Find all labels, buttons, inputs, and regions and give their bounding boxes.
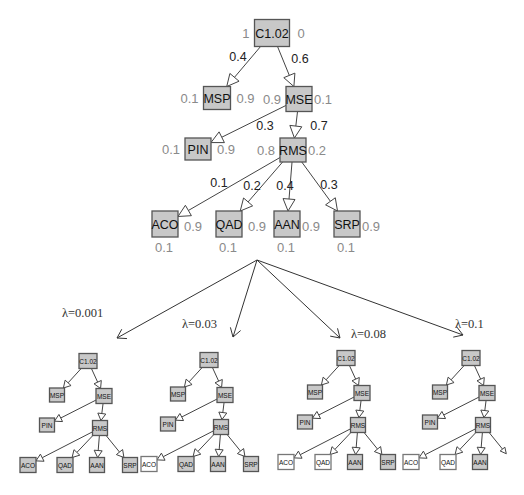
node-aco: ACO0.90.1	[151, 211, 202, 255]
edge-weight: 0.4	[276, 179, 293, 193]
node-label: ACO	[404, 459, 418, 466]
arrowhead-icon	[477, 377, 484, 385]
edge-line	[198, 435, 214, 452]
node-label: QAD	[58, 462, 72, 470]
edge-weight: 0.3	[320, 178, 337, 192]
node-label: PIN	[163, 421, 174, 428]
arrowhead-icon	[178, 205, 191, 216]
edge-RMS-SRP-pruned	[489, 433, 506, 454]
edge-MSE-RMS	[290, 112, 302, 139]
small-node-pin: PIN	[423, 415, 438, 429]
small-node-c102: C1.02	[200, 353, 218, 368]
edge-RMS-QAD	[330, 433, 351, 455]
small-node-pin: PIN	[40, 418, 55, 432]
arrow-line	[257, 260, 463, 335]
edge-line	[349, 366, 355, 380]
edge-RMS-AAN	[94, 436, 102, 458]
left-probability: 1	[242, 26, 249, 41]
small-node-aan: AAN	[90, 458, 105, 473]
small-node-qad: QAD	[178, 457, 194, 472]
small-node-srp: SRP	[244, 457, 259, 472]
small-node-mse: MSE	[96, 389, 112, 404]
node-label: AAN	[348, 459, 362, 466]
arrowhead-icon	[237, 449, 245, 457]
node-pin: PIN0.10.9	[162, 138, 235, 160]
small-node-pin: PIN	[161, 417, 176, 431]
pruned-tree-2: C1.02MSPMSEPINRMSACOQADAANSRP	[141, 353, 259, 472]
edge-C102-MSE	[91, 369, 101, 389]
edge-line	[98, 436, 99, 451]
small-node-aco: ACO	[278, 455, 294, 470]
node-label: AAN	[274, 218, 300, 232]
edge-weight: 0.6	[291, 52, 308, 66]
edge-C102-MSP	[321, 366, 339, 386]
edge-C102-MSP	[446, 366, 464, 386]
edge-line	[444, 397, 479, 415]
edge-MSE-PIN	[211, 105, 286, 142]
small-node-qad: QAD	[440, 455, 456, 470]
node-label: MSP	[308, 389, 322, 396]
node-label: AAN	[473, 459, 487, 466]
pruned-tree-4: C1.02MSPMSEPINRMSACOQADAAN	[403, 351, 506, 470]
node-label: AAN	[211, 461, 225, 468]
edge-RMS-SRP	[227, 435, 245, 457]
edge-C102-MSE	[212, 368, 222, 388]
lambda-label: λ=0.03	[182, 317, 217, 331]
small-node-mse: MSE	[479, 386, 495, 401]
right-probability: 0.9	[362, 219, 380, 234]
node-label: QAD	[441, 459, 455, 467]
right-probability: 0.9	[237, 91, 255, 106]
small-node-msp: MSP	[171, 387, 186, 401]
arrowhead-icon	[215, 379, 222, 387]
edge-line	[219, 435, 220, 450]
node-label: SRP	[244, 461, 257, 468]
edge-line	[163, 431, 213, 457]
arrowhead-icon	[356, 410, 364, 417]
edge-line	[188, 158, 280, 211]
node-label: PIN	[300, 419, 311, 426]
node-label: QAD	[215, 218, 242, 232]
node-label: MSE	[480, 390, 495, 397]
arrowhead-icon	[477, 447, 485, 454]
edge-RMS-AAN	[215, 435, 223, 457]
node-c102: C1.0210	[242, 20, 304, 47]
small-node-aan: AAN	[348, 455, 363, 470]
node-label: MSP	[203, 92, 230, 106]
edge-line	[106, 436, 119, 453]
node-label: AAN	[90, 462, 104, 469]
small-node-msp: MSP	[308, 385, 323, 399]
edge-C102-MSP	[184, 368, 202, 388]
edge-MSE-RMS	[481, 401, 489, 418]
small-node-aco: ACO	[20, 458, 36, 473]
arrowhead-icon	[500, 447, 506, 454]
arrowhead-icon	[227, 73, 239, 86]
small-node-mse: MSE	[354, 386, 370, 401]
edge-RMS-ACO	[157, 431, 214, 460]
edge-line	[474, 366, 480, 380]
small-node-mse: MSE	[217, 388, 233, 403]
edge-MSE-PIN	[438, 397, 480, 419]
edge-MSE-PIN	[313, 397, 355, 419]
right-probability: 0	[298, 26, 305, 41]
edge-RMS-QAD	[72, 436, 93, 458]
left-probability: 0.9	[263, 92, 281, 107]
below-probability: 0.1	[155, 240, 173, 255]
edge-line	[182, 399, 217, 417]
node-label: PIN	[188, 143, 209, 157]
arrowhead-icon	[98, 413, 106, 420]
arrowhead-icon	[240, 198, 252, 211]
small-node-qad: QAD	[57, 458, 73, 473]
node-label: C1.02	[462, 355, 480, 362]
edge-C102-MSE	[349, 366, 359, 386]
node-label: ACO	[142, 461, 156, 468]
node-label: ACO	[21, 462, 35, 469]
lambda-arrows: λ=0.001λ=0.03λ=0.08λ=0.1	[62, 260, 484, 341]
edge-C102-MSP	[63, 369, 81, 389]
below-probability: 0.1	[337, 240, 355, 255]
right-probability: 0.9	[248, 219, 266, 234]
small-node-c102: C1.02	[79, 354, 97, 369]
edge-line	[223, 403, 224, 413]
small-node-srp: SRP	[381, 455, 396, 470]
node-label: C1.02	[79, 358, 97, 365]
small-node-pin: PIN	[298, 415, 313, 429]
